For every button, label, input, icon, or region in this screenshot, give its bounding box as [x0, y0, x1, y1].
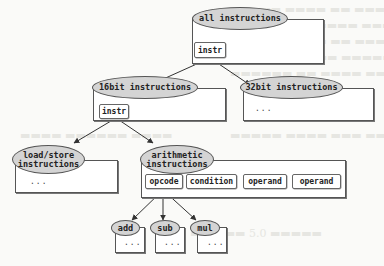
mul-content-ellipsis: ... — [207, 238, 224, 247]
edge-16bit-to-arith — [116, 118, 153, 143]
edge-16bit-to-loadstore — [74, 118, 116, 143]
loadstore-content-ellipsis: ... — [30, 177, 47, 186]
field-condition: condition — [186, 174, 237, 189]
field-operand-1: operand — [243, 174, 287, 189]
add-content-ellipsis: ... — [124, 238, 141, 247]
32bit-instructions-label: 32bit instructions — [245, 83, 337, 92]
mul-label: mul — [197, 224, 212, 233]
arithmetic-instructions-node: arithmetic instructions — [140, 145, 214, 174]
loadstore-label-line2: instructions — [18, 160, 79, 169]
16bit-instr-field: instr — [99, 104, 129, 119]
field-operand-2: operand — [292, 174, 341, 189]
mul-node: mul — [190, 220, 220, 236]
all-instructions-node: all instructions — [192, 7, 288, 30]
sub-content-ellipsis: ... — [164, 238, 181, 247]
all-instructions-label: all instructions — [199, 14, 281, 23]
field-opcode: opcode — [145, 174, 183, 189]
all-instr-field: instr — [194, 42, 226, 58]
32bit-content-ellipsis: ... — [255, 104, 272, 113]
16bit-instructions-node: 16bit instructions — [92, 76, 198, 99]
16bit-instructions-label: 16bit instructions — [99, 83, 191, 92]
32bit-instructions-node: 32bit instructions — [240, 76, 343, 99]
add-node: add — [111, 220, 140, 236]
sub-label: sub — [157, 224, 172, 233]
add-label: add — [118, 224, 133, 233]
loadstore-instructions-node: load/store instructions — [12, 145, 85, 174]
arithmetic-label-line2: instructions — [146, 160, 207, 169]
sub-node: sub — [150, 220, 180, 236]
